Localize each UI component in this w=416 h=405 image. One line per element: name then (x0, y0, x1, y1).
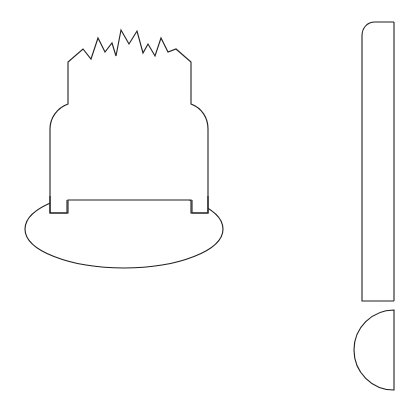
crown-body-shape (50, 30, 208, 213)
drawing-canvas (0, 0, 416, 405)
line-drawing-svg (0, 0, 416, 405)
